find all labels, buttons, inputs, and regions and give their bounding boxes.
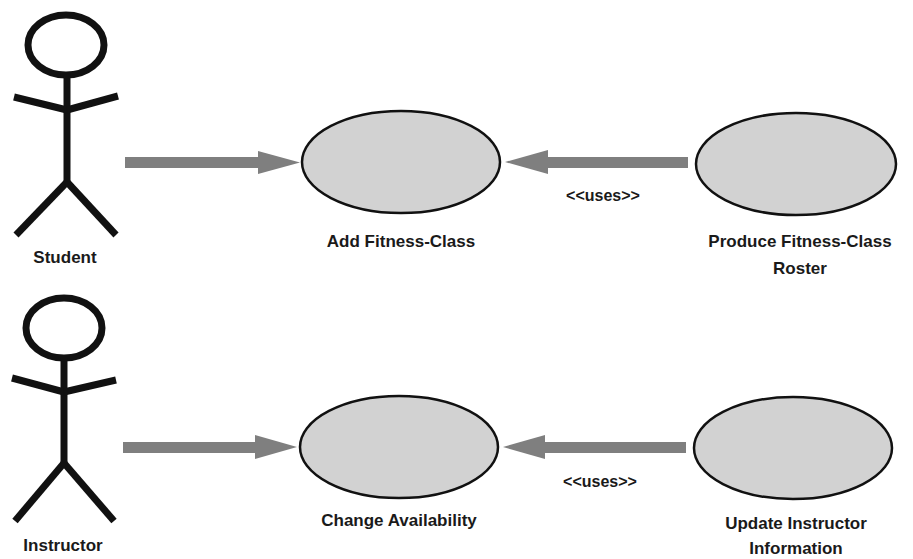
usecase-label-produce-roster-line1: Produce Fitness-Class <box>708 228 891 255</box>
usecase-label-update-info-line1: Update Instructor <box>725 510 867 537</box>
relationship-label-uses-1: <<uses>> <box>566 182 640 209</box>
usecase-label-change-availability: Change Availability <box>321 507 477 534</box>
actor-instructor-figure <box>12 298 116 521</box>
actor-student-figure <box>14 15 118 235</box>
relationship-label-uses-2: <<uses>> <box>563 468 637 495</box>
arrow-roster-uses-add-class <box>505 150 688 174</box>
usecase-change-availability <box>300 396 498 498</box>
actor-head <box>26 298 102 358</box>
arrow-student-to-add-class <box>125 151 300 174</box>
usecase-produce-roster <box>696 113 896 215</box>
actor-label-instructor: Instructor <box>23 532 102 559</box>
usecase-label-add-fitness-class: Add Fitness-Class <box>327 228 475 255</box>
actor-head <box>28 15 104 75</box>
usecase-add-fitness-class <box>302 111 500 213</box>
arrow-instructor-to-change-availability <box>123 435 297 459</box>
usecase-label-produce-roster-line2: Roster <box>773 255 827 282</box>
actor-label-student: Student <box>33 244 96 271</box>
arrow-update-info-uses-change-availability <box>503 435 686 459</box>
usecase-label-update-info-line2: Information <box>749 535 843 559</box>
usecase-update-instructor-info <box>694 397 892 499</box>
